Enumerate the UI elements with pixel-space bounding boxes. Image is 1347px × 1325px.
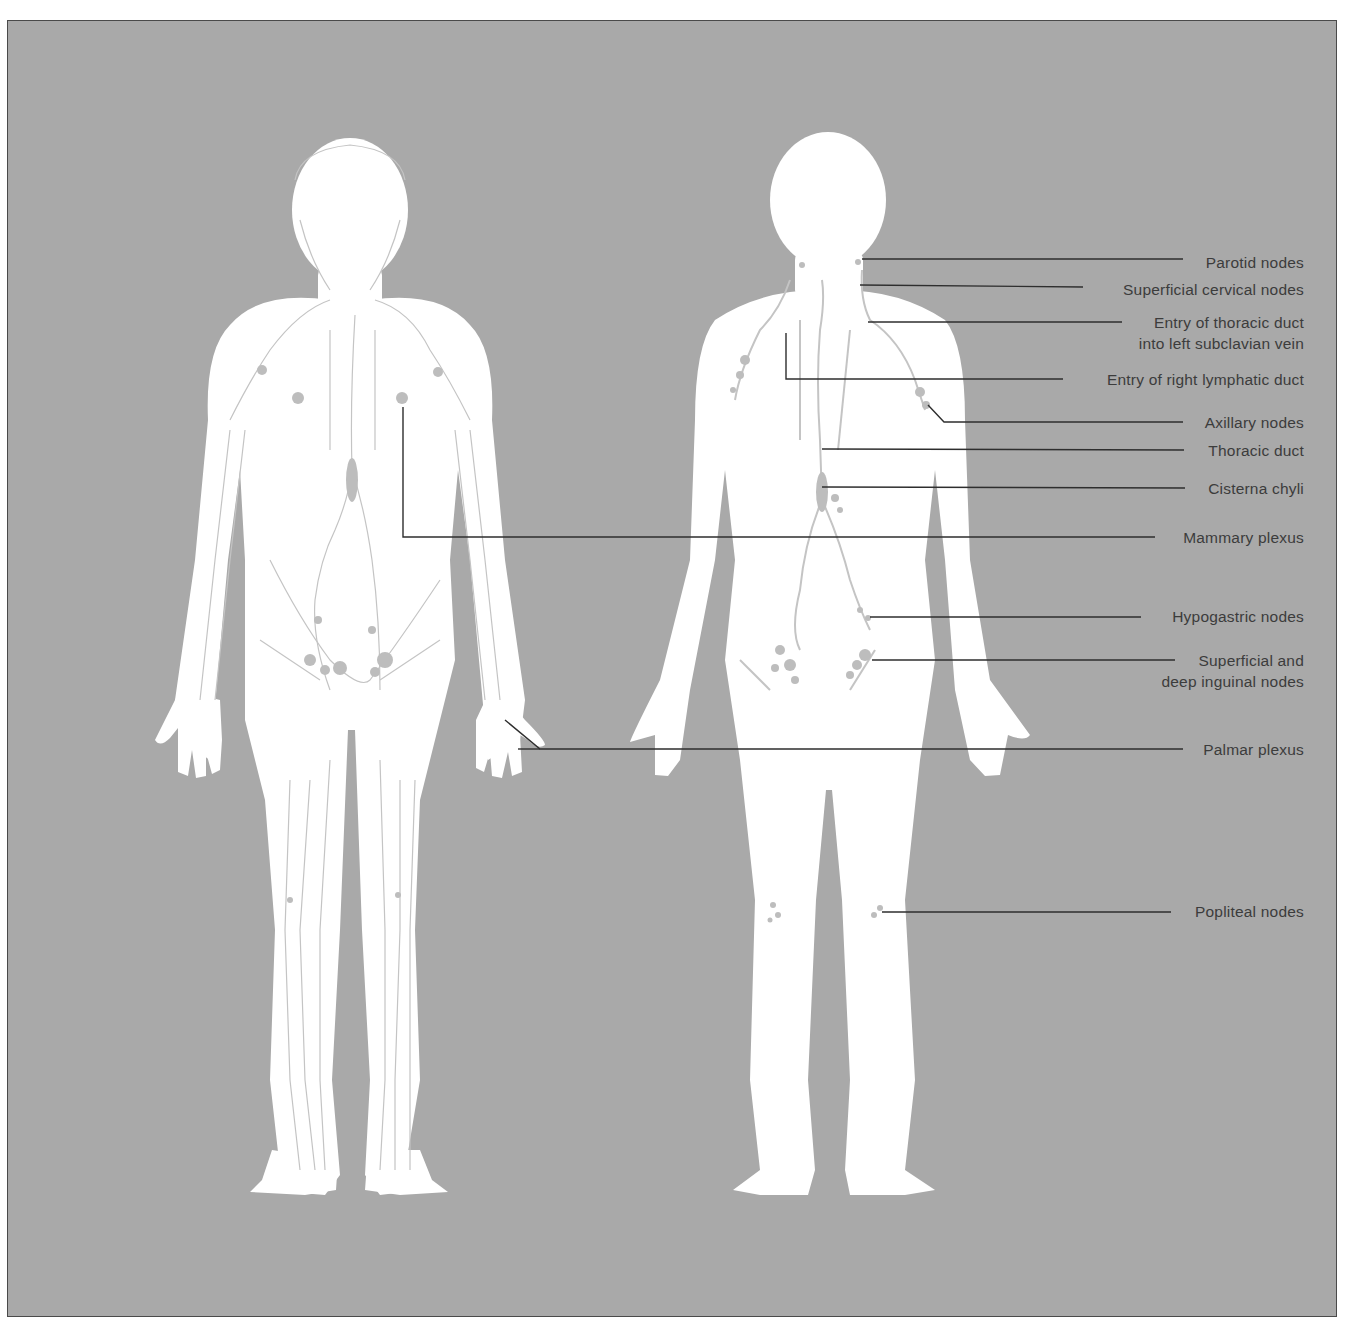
label-parotid-nodes: Parotid nodes (1206, 252, 1304, 273)
leader-axillary (928, 405, 1183, 422)
label-text: Entry of right lymphatic duct (1107, 371, 1304, 388)
label-thoracic-duct-entry: Entry of thoracic duct into left subclav… (1139, 312, 1304, 354)
left-body-silhouette (155, 138, 545, 1195)
leader-cisterna-chyli (822, 487, 1185, 488)
lymphatic-diagram-art (0, 0, 1347, 1325)
label-text-line2: into left subclavian vein (1139, 333, 1304, 354)
label-text: Mammary plexus (1183, 529, 1304, 546)
label-text: Palmar plexus (1203, 741, 1304, 758)
label-text: Cisterna chyli (1208, 480, 1304, 497)
leader-superficial-cervical (860, 285, 1083, 287)
label-text: Parotid nodes (1206, 254, 1304, 271)
label-text: Entry of thoracic duct (1139, 312, 1304, 333)
label-popliteal-nodes: Popliteal nodes (1195, 901, 1304, 922)
label-inguinal-nodes: Superficial and deep inguinal nodes (1161, 650, 1304, 692)
label-right-lymphatic-duct: Entry of right lymphatic duct (1107, 369, 1304, 390)
leader-thoracic-duct (822, 449, 1184, 450)
label-text-line2: deep inguinal nodes (1161, 671, 1304, 692)
label-superficial-cervical-nodes: Superficial cervical nodes (1123, 279, 1304, 300)
right-body-silhouette (630, 132, 1030, 1195)
label-text: Thoracic duct (1208, 442, 1304, 459)
label-text: Axillary nodes (1205, 414, 1304, 431)
label-text: Hypogastric nodes (1172, 608, 1304, 625)
label-palmar-plexus: Palmar plexus (1203, 739, 1304, 760)
label-thoracic-duct: Thoracic duct (1208, 440, 1304, 461)
label-text: Superficial and (1161, 650, 1304, 671)
label-hypogastric-nodes: Hypogastric nodes (1172, 606, 1304, 627)
label-mammary-plexus: Mammary plexus (1183, 527, 1304, 548)
label-text: Popliteal nodes (1195, 903, 1304, 920)
label-text: Superficial cervical nodes (1123, 281, 1304, 298)
label-cisterna-chyli: Cisterna chyli (1208, 478, 1304, 499)
label-axillary-nodes: Axillary nodes (1205, 412, 1304, 433)
